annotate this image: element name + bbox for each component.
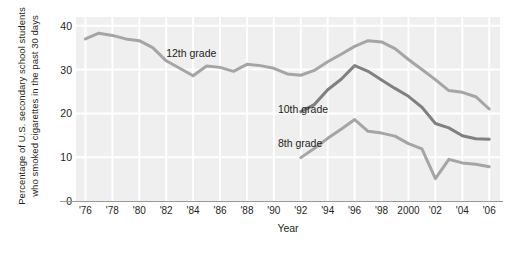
y-tick-label: 30 [50, 64, 72, 76]
x-tick-label: '04 [456, 205, 469, 216]
x-tick-label: '02 [429, 205, 442, 216]
y-tick-label: 40 [50, 20, 72, 32]
series-label-10th-grade: 10th grade [278, 103, 328, 115]
y-tick-label: 20 [50, 107, 72, 119]
y-axis-label-line-1: Percentage of U.S. secondary school stud… [15, 7, 28, 205]
series-label-12th-grade: 12th grade [166, 47, 216, 59]
x-tick-label: '82 [160, 205, 173, 216]
x-tick-label: '90 [267, 205, 280, 216]
x-tick-label: 2000 [397, 205, 419, 216]
x-tick-label: '80 [133, 205, 146, 216]
smoking-prevalence-line-chart: Percentage of U.S. secondary school stud… [0, 0, 509, 262]
y-axis-tick-labels: 010203040 [46, 0, 72, 212]
x-tick-label: '88 [240, 205, 253, 216]
x-tick-label: '94 [321, 205, 334, 216]
x-tick-label: '06 [483, 205, 496, 216]
x-tick-label: '78 [106, 205, 119, 216]
x-tick-label: '98 [375, 205, 388, 216]
series-label-8th-grade: 8th grade [278, 137, 322, 149]
series-line-8th-grade [301, 120, 489, 179]
series-line-10th-grade [301, 66, 489, 140]
x-tick-label: '84 [187, 205, 200, 216]
x-tick-label: '96 [348, 205, 361, 216]
series-line-12th-grade [85, 33, 489, 109]
x-axis-line [60, 201, 503, 202]
x-tick-label: '86 [213, 205, 226, 216]
x-tick-label: '92 [294, 205, 307, 216]
y-tick-label: 10 [50, 151, 72, 163]
x-axis-label: Year [76, 222, 500, 234]
y-axis-label-line-2: who smoked cigarettes in the past 30 day… [28, 7, 41, 205]
x-axis-tick-labels: '76'78'80'82'84'86'88'90'92'94'96'982000… [76, 205, 500, 221]
x-tick-label: '76 [79, 205, 92, 216]
